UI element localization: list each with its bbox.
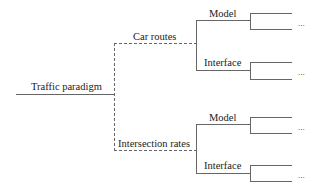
diagram-lines <box>0 0 324 193</box>
node-label-model: Model <box>209 8 236 20</box>
node-label-interface: Interface <box>204 57 241 69</box>
ellipsis-marker: ... <box>298 18 305 28</box>
branch-label-intersection-rates: Intersection rates <box>118 138 190 150</box>
node-label-interface: Interface <box>204 160 241 172</box>
ellipsis-marker: ... <box>298 122 305 132</box>
node-label-model: Model <box>209 112 236 124</box>
intersection-rates-subtree <box>196 117 292 182</box>
ellipsis-marker: ... <box>298 67 305 77</box>
car-routes-subtree <box>196 13 292 80</box>
tree-diagram: Traffic paradigm Car routes Model Interf… <box>0 0 324 193</box>
dashed-connectors <box>114 43 196 151</box>
ellipsis-marker: ... <box>298 170 305 180</box>
branch-label-car-routes: Car routes <box>133 31 176 43</box>
root-label: Traffic paradigm <box>31 81 102 93</box>
